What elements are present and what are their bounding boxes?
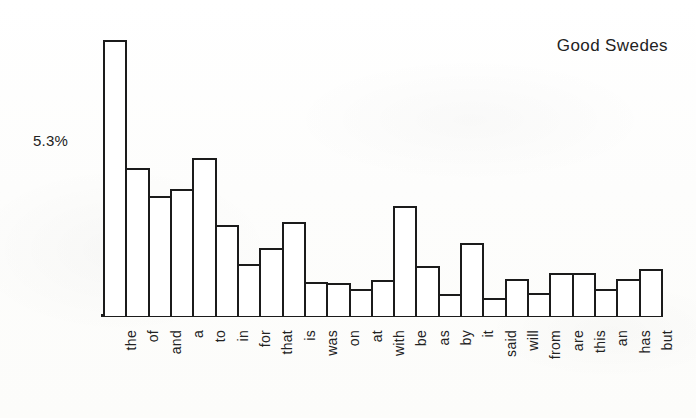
bar <box>326 283 350 316</box>
x-tick-label: for <box>254 330 276 414</box>
x-tick-label: the <box>120 330 142 414</box>
bar <box>349 289 373 316</box>
bar <box>527 293 551 316</box>
bar <box>549 273 573 316</box>
bar <box>415 266 439 316</box>
x-tick-label: said <box>500 330 522 414</box>
plot-area <box>103 40 661 316</box>
bar <box>616 279 640 316</box>
bar <box>215 225 239 316</box>
bar <box>460 243 484 316</box>
bar <box>103 40 127 316</box>
bar <box>125 168 149 316</box>
x-tick-label: are <box>567 330 589 414</box>
x-tick-label: a <box>187 330 209 414</box>
x-tick-label: to <box>209 330 231 414</box>
bar <box>371 280 395 316</box>
x-tick-label: an <box>611 330 633 414</box>
bar-chart-figure: Good Swedes 5.3% theofandatoinforthatisw… <box>0 0 696 418</box>
bar <box>505 279 529 316</box>
bar <box>192 158 216 316</box>
x-tick-label: at <box>366 330 388 414</box>
bar <box>594 289 618 316</box>
bar <box>259 248 283 316</box>
y-axis-value-label: 5.3% <box>33 132 68 149</box>
x-tick-label: in <box>232 330 254 414</box>
bar <box>237 264 261 316</box>
bar <box>282 222 306 316</box>
bar <box>482 298 506 316</box>
bar <box>304 282 328 316</box>
bars-layer <box>103 40 661 316</box>
x-tick-label: it <box>477 330 499 414</box>
x-tick-label: is <box>299 330 321 414</box>
x-tick-label: on <box>343 330 365 414</box>
x-tick-label: and <box>165 330 187 414</box>
x-tick-label: will <box>522 330 544 414</box>
bar <box>639 269 663 316</box>
x-tick-label: of <box>142 330 164 414</box>
x-tick-label: by <box>455 330 477 414</box>
x-axis-tick-labels: theofandatoinforthatiswasonatwithbeasbyi… <box>103 330 661 414</box>
bar <box>393 206 417 316</box>
x-tick-label: be <box>410 330 432 414</box>
x-tick-label: from <box>544 330 566 414</box>
bar <box>148 196 172 316</box>
x-tick-label: that <box>276 330 298 414</box>
x-tick-label: as <box>433 330 455 414</box>
x-tick-label: with <box>388 330 410 414</box>
x-tick-label: was <box>321 330 343 414</box>
x-tick-label: has <box>634 330 656 414</box>
x-tick-label: this <box>589 330 611 414</box>
bar <box>438 294 462 316</box>
x-tick-label: but <box>656 330 678 414</box>
bar <box>170 189 194 316</box>
bar <box>572 273 596 316</box>
